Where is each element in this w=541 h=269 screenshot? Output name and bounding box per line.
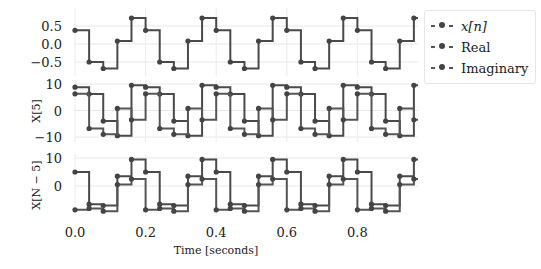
subplot-3: 100X[N − 5] xyxy=(30,151,418,216)
svg-text:0.2: 0.2 xyxy=(135,225,156,240)
legend-item-xn: x[n] xyxy=(431,16,487,36)
legend-item-imaginary: Imaginary xyxy=(431,58,528,78)
legend-marker-icon xyxy=(431,43,453,51)
legend-item-real: Real xyxy=(431,37,490,57)
svg-text:0.6: 0.6 xyxy=(276,225,297,240)
legend-label: Real xyxy=(461,40,490,55)
legend-label: x[n] xyxy=(461,19,487,34)
svg-text:0: 0 xyxy=(54,179,62,194)
subplot-1: 0.50.0−0.5 xyxy=(30,8,418,76)
svg-text:0.4: 0.4 xyxy=(206,225,227,240)
y-axis-label: X[5] xyxy=(30,99,43,122)
chart-legend: x[n] Real Imaginary xyxy=(424,10,536,84)
subplot-2: 100−10X[5] xyxy=(30,77,418,145)
x-axis-label: Time [seconds] xyxy=(174,244,259,257)
y-axis-label: X[N − 5] xyxy=(30,160,43,209)
legend-label: Imaginary xyxy=(461,61,528,76)
legend-marker-icon xyxy=(431,64,453,72)
svg-text:10: 10 xyxy=(45,77,62,92)
svg-text:0: 0 xyxy=(54,104,62,119)
svg-text:−10: −10 xyxy=(35,130,62,145)
svg-text:0.0: 0.0 xyxy=(41,37,62,52)
svg-text:0.5: 0.5 xyxy=(41,19,62,34)
svg-text:−0.5: −0.5 xyxy=(30,55,62,70)
svg-text:0.8: 0.8 xyxy=(347,225,368,240)
svg-text:0.0: 0.0 xyxy=(65,225,86,240)
legend-marker-icon xyxy=(431,22,453,30)
svg-text:10: 10 xyxy=(45,151,62,166)
